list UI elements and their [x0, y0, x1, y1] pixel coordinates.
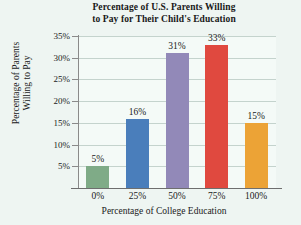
y-tick-mark-35% [72, 36, 78, 37]
y-axis-line [78, 35, 79, 189]
x-tick-label-75pct: 75% [195, 191, 239, 201]
y-tick-label-35%: 35% [26, 31, 70, 41]
y-tick-label-25%: 25% [26, 74, 70, 84]
x-tick-label-0pct: 0% [76, 191, 120, 201]
y-axis-tick-labels: 5%10%15%20%25%30%35% [24, 0, 70, 225]
y-tick-label-30%: 30% [26, 53, 70, 63]
bar-value-label-50pct: 31% [157, 41, 197, 51]
bar-75pct [205, 45, 228, 188]
bar-0pct [86, 166, 109, 188]
bar-value-label-75pct: 33% [197, 33, 237, 43]
bar-value-label-0pct: 5% [78, 154, 118, 164]
y-tick-label-10%: 10% [26, 140, 70, 150]
x-axis-line [71, 188, 282, 189]
y-tick-mark-15% [72, 123, 78, 124]
x-tick-label-50pct: 50% [155, 191, 199, 201]
y-tick-label-15%: 15% [26, 118, 70, 128]
y-axis-title-line-1: Percentage of Parents [11, 18, 22, 148]
bar-chart-figure: Percentage of U.S. Parents Willing to Pa… [0, 0, 301, 225]
chart-title-line-2: to Pay for Their Child's Education [52, 14, 276, 26]
bar-25pct [126, 119, 149, 188]
x-tick-label-25pct: 25% [115, 191, 159, 201]
y-tick-mark-30% [72, 58, 78, 59]
y-tick-label-5%: 5% [26, 161, 70, 171]
y-tick-mark-10% [72, 145, 78, 146]
y-tick-mark-5% [72, 166, 78, 167]
bar-100pct [245, 123, 268, 188]
chart-title-line-1: Percentage of U.S. Parents Willing [52, 2, 276, 14]
bar-value-label-100pct: 15% [236, 111, 276, 121]
y-tick-mark-20% [72, 101, 78, 102]
chart-title: Percentage of U.S. Parents Willing to Pa… [52, 2, 276, 25]
x-axis-title: Percentage of College Education [52, 206, 276, 216]
gridline-35% [78, 36, 276, 37]
bar-50pct [166, 53, 189, 188]
y-tick-label-20%: 20% [26, 96, 70, 106]
bar-value-label-25pct: 16% [117, 107, 157, 117]
x-tick-label-100pct: 100% [234, 191, 278, 201]
y-tick-mark-25% [72, 79, 78, 80]
